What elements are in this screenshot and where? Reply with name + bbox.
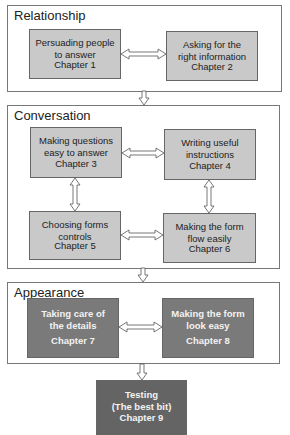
- chapter-title: Making questions easy to answer: [39, 135, 113, 159]
- double-arrow-3-4-icon: [122, 148, 164, 158]
- chapter-title: Testing (The best bit): [112, 389, 172, 413]
- double-arrow-4-6-icon: [204, 180, 214, 213]
- chapter-number: Chapter 7: [28, 335, 118, 347]
- double-arrow-3-5-icon: [70, 178, 80, 211]
- chapter-9-box: Testing (The best bit) Chapter 9: [96, 380, 187, 435]
- chapter-1-box: Persuading people to answer Chapter 1: [29, 29, 121, 79]
- chapter-title: Asking for the right information: [178, 39, 246, 63]
- chapter-number: Chapter 8: [163, 335, 253, 347]
- chapter-number: Chapter 2: [167, 61, 257, 73]
- double-arrow-5-6-icon: [121, 230, 163, 240]
- chapter-8-box: Making the form look easy Chapter 8: [162, 298, 254, 358]
- chapter-number: Chapter 6: [164, 243, 255, 255]
- chapter-number: Chapter 4: [165, 160, 255, 172]
- chapter-7-box: Taking care of the details Chapter 7: [27, 298, 119, 358]
- section-title: Relationship: [14, 8, 86, 23]
- chapter-title: Writing useful instructions: [181, 137, 238, 161]
- chapter-4-box: Writing useful instructions Chapter 4: [164, 129, 256, 180]
- chapter-6-box: Making the form flow easily Chapter 6: [163, 213, 256, 263]
- double-arrow-1-2-icon: [121, 49, 166, 59]
- chapter-number: Chapter 5: [30, 240, 120, 252]
- chapter-title: Taking care of the details: [41, 308, 105, 332]
- chapter-number: Chapter 9: [97, 412, 186, 424]
- down-arrow-icon: [139, 91, 149, 105]
- chapter-title: Making the form look easy: [171, 308, 244, 332]
- chapter-5-box: Choosing forms controls Chapter 5: [29, 211, 121, 260]
- chapter-3-box: Making questions easy to answer Chapter …: [30, 127, 122, 178]
- chapter-2-box: Asking for the right information Chapter…: [166, 31, 258, 81]
- chapter-title: Persuading people to answer: [35, 37, 114, 61]
- chapter-title: Making the form flow easily: [175, 221, 243, 245]
- double-arrow-7-8-icon: [119, 322, 162, 332]
- chapter-number: Chapter 1: [30, 59, 120, 71]
- chapter-number: Chapter 3: [31, 158, 121, 170]
- down-arrow-icon: [137, 364, 147, 380]
- section-title: Conversation: [14, 108, 91, 123]
- down-arrow-icon: [138, 268, 148, 282]
